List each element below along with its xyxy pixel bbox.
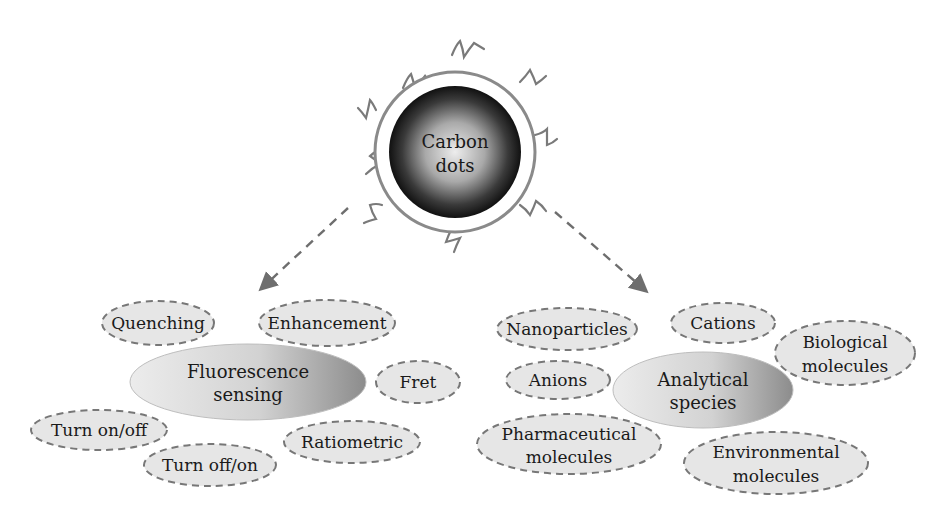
- svg-text:Environmental: Environmental: [712, 442, 839, 462]
- svg-text:Quenching: Quenching: [111, 313, 205, 333]
- svg-text:molecules: molecules: [733, 466, 820, 486]
- hub-fluorescence-sensing[interactable]: Fluorescence sensing: [130, 344, 366, 420]
- svg-text:Ratiometric: Ratiometric: [301, 432, 403, 452]
- node-ratiometric[interactable]: Ratiometric: [284, 421, 420, 463]
- node-quenching[interactable]: Quenching: [102, 301, 214, 345]
- svg-text:Pharmaceutical: Pharmaceutical: [502, 424, 637, 444]
- node-fret[interactable]: Fret: [376, 361, 460, 403]
- svg-text:Turn on/off: Turn on/off: [51, 420, 149, 440]
- node-pharmaceutical-molecules[interactable]: Pharmaceutical molecules: [477, 414, 661, 474]
- node-environmental-molecules[interactable]: Environmental molecules: [684, 432, 868, 494]
- node-turn-off-on[interactable]: Turn off/on: [144, 444, 276, 486]
- node-nanoparticles[interactable]: Nanoparticles: [497, 308, 637, 350]
- arrow-left: [262, 208, 348, 288]
- hub-analytical-species[interactable]: Analytical species: [613, 352, 793, 428]
- node-cations[interactable]: Cations: [671, 303, 775, 343]
- carbon-dot-core: [389, 86, 521, 218]
- analytical-species-cluster: Nanoparticles Cations Biological molecul…: [477, 303, 915, 494]
- node-anions[interactable]: Anions: [506, 361, 610, 399]
- diagram-canvas: Carbon dots Quenching Enhancement Fluore…: [0, 0, 945, 513]
- svg-text:species: species: [669, 392, 736, 413]
- svg-text:Fluorescence: Fluorescence: [187, 361, 309, 382]
- svg-text:Nanoparticles: Nanoparticles: [506, 319, 627, 339]
- svg-text:Biological: Biological: [802, 332, 887, 352]
- arrow-right: [555, 212, 645, 290]
- svg-text:sensing: sensing: [213, 384, 283, 405]
- svg-text:Analytical: Analytical: [657, 369, 749, 390]
- svg-text:Turn off/on: Turn off/on: [162, 455, 258, 475]
- fluorescence-sensing-cluster: Quenching Enhancement Fluorescence sensi…: [31, 300, 460, 486]
- node-enhancement[interactable]: Enhancement: [259, 300, 395, 346]
- carbon-dot: Carbon dots: [358, 41, 557, 252]
- svg-text:Fret: Fret: [400, 372, 437, 392]
- node-biological-molecules[interactable]: Biological molecules: [775, 321, 915, 385]
- node-turn-on-off[interactable]: Turn on/off: [31, 410, 167, 450]
- svg-text:molecules: molecules: [802, 356, 889, 376]
- core-label-line2: dots: [436, 155, 475, 176]
- svg-text:Enhancement: Enhancement: [268, 313, 387, 333]
- svg-text:Anions: Anions: [528, 370, 588, 390]
- svg-text:Cations: Cations: [690, 313, 755, 333]
- svg-text:molecules: molecules: [526, 447, 613, 467]
- core-label-line1: Carbon: [421, 131, 488, 152]
